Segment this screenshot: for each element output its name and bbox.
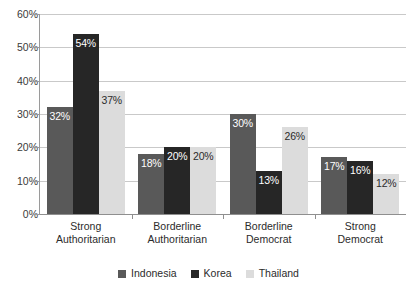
bar-korea[interactable]: 20% (164, 147, 190, 214)
bar-indonesia[interactable]: 32% (47, 107, 73, 214)
y-axis-labels: 0%10%20%30%40%50%60% (0, 14, 38, 214)
bar-indonesia[interactable]: 30% (230, 114, 256, 214)
category-label-line: Authoritarian (40, 233, 132, 246)
bar-thailand[interactable]: 20% (190, 147, 216, 214)
bar-value-label: 30% (232, 118, 253, 129)
y-tick-mark (34, 114, 39, 115)
y-tick-mark (34, 181, 39, 182)
y-tick-mark (34, 14, 39, 15)
bar-value-label: 17% (324, 161, 345, 172)
x-axis-tick (315, 215, 316, 219)
bar-value-label: 20% (167, 151, 188, 162)
grouped-bar-chart: 0%10%20%30%40%50%60% 32%54%37%18%20%20%3… (0, 0, 417, 295)
bar-value-label: 12% (376, 178, 397, 189)
chart-legend: IndonesiaKoreaThailand (0, 268, 417, 279)
x-axis-tick (223, 215, 224, 219)
bar-value-label: 54% (75, 38, 96, 49)
bar-indonesia[interactable]: 18% (138, 154, 164, 214)
legend-label: Korea (204, 268, 232, 279)
bar-group: 17%16%12% (315, 14, 407, 214)
category-label: StrongAuthoritarian (40, 220, 132, 246)
bar-indonesia[interactable]: 17% (321, 157, 347, 214)
bar-group-bars: 30%13%26% (223, 14, 315, 214)
y-tick-label: 40% (0, 75, 38, 86)
category-label-line: Strong (315, 220, 407, 233)
legend-swatch-icon (191, 270, 199, 278)
bar-group-bars: 17%16%12% (315, 14, 407, 214)
legend-swatch-icon (246, 270, 254, 278)
category-label: StrongDemocrat (315, 220, 407, 246)
bar-korea[interactable]: 54% (73, 34, 99, 214)
bar-value-label: 32% (49, 111, 70, 122)
bar-group-bars: 18%20%20% (132, 14, 224, 214)
x-axis-category-labels: StrongAuthoritarianBorderlineAuthoritari… (40, 220, 406, 250)
category-label-line: Borderline (132, 220, 224, 233)
category-label: BorderlineAuthoritarian (132, 220, 224, 246)
legend-item-korea[interactable]: Korea (191, 268, 232, 279)
y-tick-mark (34, 47, 39, 48)
bar-value-label: 18% (141, 158, 162, 169)
y-tick-mark (34, 147, 39, 148)
bar-thailand[interactable]: 12% (373, 174, 399, 214)
legend-swatch-icon (118, 270, 126, 278)
bar-value-label: 20% (193, 151, 214, 162)
bar-korea[interactable]: 13% (256, 171, 282, 214)
y-tick-label: 20% (0, 142, 38, 153)
y-tick-label: 10% (0, 175, 38, 186)
bar-thailand[interactable]: 26% (282, 127, 308, 214)
bar-thailand[interactable]: 37% (99, 91, 125, 214)
y-tick-mark (34, 214, 39, 215)
category-label-line: Authoritarian (132, 233, 224, 246)
bar-korea[interactable]: 16% (347, 161, 373, 214)
bar-group: 32%54%37% (40, 14, 132, 214)
bar-value-label: 37% (101, 95, 122, 106)
category-label-line: Borderline (223, 220, 315, 233)
category-label-line: Strong (40, 220, 132, 233)
bar-value-label: 16% (350, 165, 371, 176)
legend-label: Thailand (259, 268, 299, 279)
y-tick-label: 30% (0, 109, 38, 120)
y-tick-label: 0% (0, 209, 38, 220)
legend-label: Indonesia (131, 268, 177, 279)
bar-group-bars: 32%54%37% (40, 14, 132, 214)
legend-item-thailand[interactable]: Thailand (246, 268, 299, 279)
y-tick-label: 60% (0, 9, 38, 20)
bar-value-label: 26% (284, 131, 305, 142)
bar-group: 30%13%26% (223, 14, 315, 214)
legend-item-indonesia[interactable]: Indonesia (118, 268, 177, 279)
bar-value-label: 13% (258, 175, 279, 186)
y-tick-label: 50% (0, 42, 38, 53)
category-label-line: Democrat (223, 233, 315, 246)
x-axis-tick (132, 215, 133, 219)
category-label-line: Democrat (315, 233, 407, 246)
bar-group: 18%20%20% (132, 14, 224, 214)
category-label: BorderlineDemocrat (223, 220, 315, 246)
plot-area: 32%54%37%18%20%20%30%13%26%17%16%12% (40, 14, 406, 215)
y-tick-mark (34, 81, 39, 82)
